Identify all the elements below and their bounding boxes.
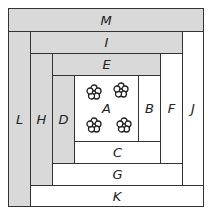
piece-L: L: [8, 31, 31, 207]
piece-label: D: [58, 112, 68, 127]
piece-F: F: [160, 53, 183, 164]
piece-E: E: [52, 53, 161, 76]
piece-I: I: [30, 31, 183, 54]
piece-label: G: [112, 167, 122, 182]
piece-label: K: [113, 189, 122, 204]
piece-G: G: [52, 163, 183, 186]
flower-icon: [113, 82, 129, 98]
flower-icon: [116, 117, 132, 133]
piece-B: B: [138, 75, 161, 142]
piece-label: B: [145, 101, 154, 116]
piece-D: D: [52, 75, 75, 164]
piece-C: C: [74, 141, 161, 164]
flower-icon: [86, 117, 102, 133]
piece-label: M: [100, 13, 111, 28]
piece-label: A: [102, 101, 111, 116]
piece-label: J: [191, 101, 195, 116]
flower-icon: [86, 84, 102, 100]
piece-H: H: [30, 53, 53, 186]
piece-label: C: [113, 145, 122, 160]
piece-M: M: [8, 8, 204, 32]
piece-label: F: [168, 101, 175, 116]
piece-label: L: [16, 112, 23, 127]
piece-label: E: [102, 57, 110, 72]
quilt-block: M L I J K H E F G D B C A: [0, 0, 211, 215]
piece-label: I: [105, 35, 109, 50]
piece-label: H: [37, 112, 47, 127]
piece-K: K: [30, 185, 204, 207]
piece-J: J: [182, 31, 204, 186]
